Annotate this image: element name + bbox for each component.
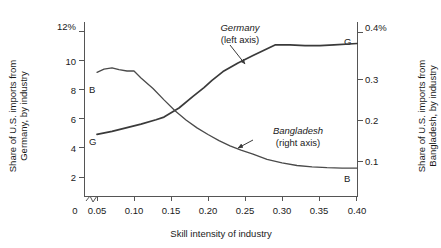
annotation-arrow-bangladesh bbox=[238, 140, 253, 148]
series-line-germany bbox=[97, 44, 357, 135]
y-axis-left-ticks bbox=[79, 32, 85, 178]
x-axis-ticks bbox=[98, 197, 357, 201]
annotation-arrow-germany bbox=[230, 45, 245, 64]
series-line-bangladesh bbox=[97, 68, 357, 168]
y-axis-right-ticks bbox=[358, 33, 364, 162]
axes-lines bbox=[85, 22, 358, 197]
chart-figure: Share of U.S. imports from Germany, by i… bbox=[0, 0, 441, 248]
plot-area bbox=[0, 0, 441, 248]
